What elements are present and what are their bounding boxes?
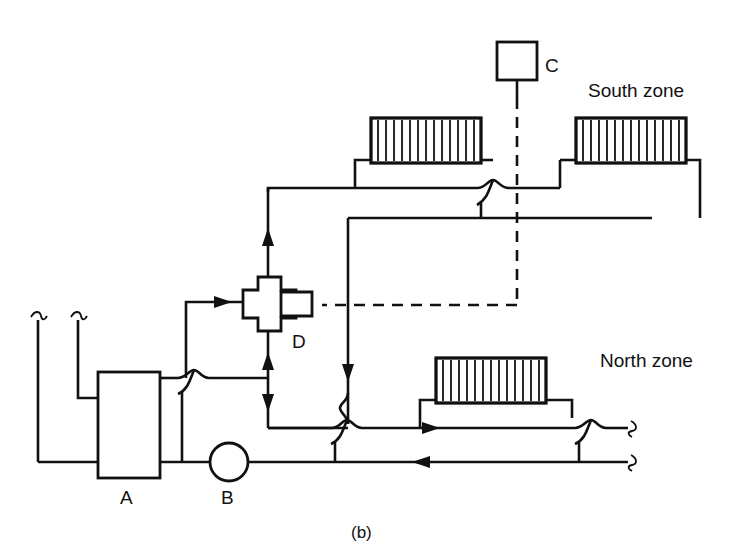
system-diagram: South zone North zone C D A B (b) — [0, 0, 739, 560]
controller-c — [497, 42, 537, 80]
radiator-north — [436, 358, 546, 403]
label-pump-b: B — [221, 487, 234, 508]
bottom-return-main — [160, 443, 636, 481]
boiler-a — [98, 372, 160, 478]
figure-caption: (b) — [351, 523, 372, 542]
label-controller-c: C — [545, 55, 559, 76]
label-north-zone: North zone — [600, 350, 693, 371]
label-valve-d: D — [292, 331, 306, 352]
radiator-south-right — [576, 118, 686, 163]
south-return-arrow — [342, 364, 354, 382]
open-vent-pipes — [31, 312, 98, 462]
label-south-zone: South zone — [588, 80, 684, 101]
figure-canvas: South zone North zone C D A B (b) — [0, 0, 739, 560]
radiator-south-left — [371, 118, 481, 163]
boiler-flow-to-valve — [186, 296, 243, 378]
mixing-valve-d — [243, 277, 312, 331]
label-boiler-a: A — [120, 487, 133, 508]
